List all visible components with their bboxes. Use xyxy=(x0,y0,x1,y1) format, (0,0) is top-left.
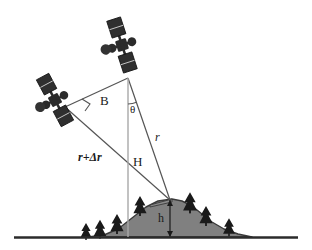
satellite-secondary xyxy=(24,70,81,134)
tree-icon xyxy=(94,220,107,239)
label-platform-height: H xyxy=(133,154,142,169)
baseline-segment xyxy=(65,78,128,107)
tree-icon xyxy=(223,218,235,236)
label-range: r xyxy=(155,130,160,144)
tree-icon xyxy=(133,196,146,216)
label-range-delta: r+Δr xyxy=(78,150,102,164)
label-terrain-height: h xyxy=(158,211,164,225)
satellite-primary xyxy=(93,15,145,78)
insar-geometry-diagram: B θ r r+Δr H h xyxy=(0,0,312,250)
label-baseline: B xyxy=(100,93,109,108)
tree-icon xyxy=(110,214,123,234)
label-look-angle: θ xyxy=(130,103,135,115)
diagram-canvas: B θ r r+Δr H h xyxy=(0,0,312,250)
right-angle-mark-icon xyxy=(82,99,90,111)
